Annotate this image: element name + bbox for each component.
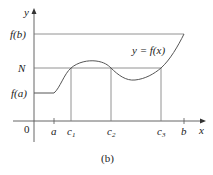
- y-axis-arrow-icon: [32, 8, 37, 14]
- fb-label: f(b): [10, 28, 26, 41]
- function-curve: [34, 34, 184, 93]
- c2-label: c2: [107, 125, 116, 139]
- c3-label: c3: [157, 125, 166, 139]
- ivt-diagram: y f(b) N f(a) 0 a c1 c2 c3 b x y = f(x) …: [0, 0, 213, 175]
- n-label: N: [17, 62, 26, 74]
- y-axis-label: y: [23, 6, 29, 18]
- x-axis-label: x: [198, 124, 204, 136]
- a-label: a: [51, 125, 57, 137]
- curve-label: y = f(x): [131, 44, 165, 57]
- origin-label: 0: [24, 123, 30, 135]
- fa-label: f(a): [11, 87, 27, 100]
- x-axis-arrow-icon: [200, 119, 206, 124]
- b-label: b: [181, 125, 187, 137]
- figure-caption: (b): [101, 152, 114, 165]
- axes: [13, 12, 202, 142]
- c1-label: c1: [67, 125, 75, 139]
